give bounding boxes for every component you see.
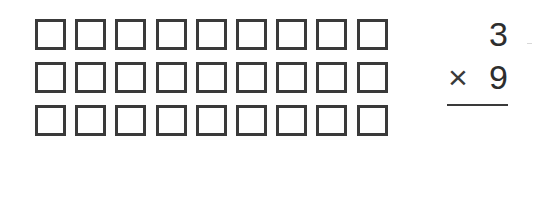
- array-box: [156, 62, 187, 93]
- array-box: [35, 19, 66, 50]
- array-box: [236, 105, 267, 136]
- array-box: [316, 62, 347, 93]
- array-box: [196, 19, 227, 50]
- array-box: [357, 19, 388, 50]
- array-box: [196, 62, 227, 93]
- array-box: [357, 62, 388, 93]
- array-box: [115, 62, 146, 93]
- array-box: [115, 19, 146, 50]
- array-box: [156, 105, 187, 136]
- scan-mark: [527, 43, 532, 44]
- array-box: [35, 105, 66, 136]
- array-box: [316, 19, 347, 50]
- answer-line: [447, 104, 508, 106]
- array-box: [276, 62, 307, 93]
- times-sign: ×: [448, 57, 468, 97]
- array-box: [196, 105, 227, 136]
- multiplier: 9: [489, 57, 508, 97]
- array-box: [115, 105, 146, 136]
- array-box: [75, 62, 106, 93]
- array-box: [35, 62, 66, 93]
- array-box: [156, 19, 187, 50]
- array-box: [236, 19, 267, 50]
- array-box: [276, 105, 307, 136]
- array-box: [316, 105, 347, 136]
- multiplicand: 3: [489, 14, 508, 54]
- array-box: [276, 19, 307, 50]
- box-array: [35, 19, 388, 136]
- array-box: [357, 105, 388, 136]
- array-box: [75, 105, 106, 136]
- multiplier-row: × 9: [446, 57, 508, 97]
- array-box: [75, 19, 106, 50]
- array-box: [236, 62, 267, 93]
